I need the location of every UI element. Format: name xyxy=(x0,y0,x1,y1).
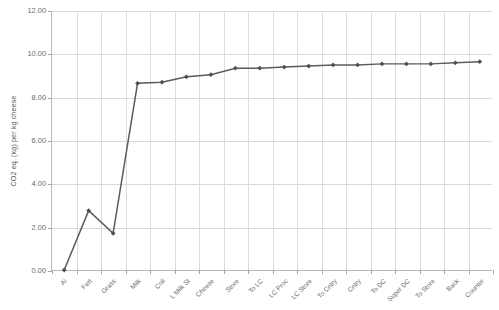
x-axis-tick-label-text: To DC xyxy=(369,277,388,296)
x-axis-tick-label-text: Counter xyxy=(463,277,485,299)
x-axis-tick-label-text: Cntry xyxy=(346,277,363,294)
series-line xyxy=(64,62,480,270)
y-axis-tick-label: 12.00 xyxy=(18,7,46,15)
data-point-marker xyxy=(208,72,213,77)
y-axis-tick-label: 2.00 xyxy=(18,224,46,232)
data-point-marker xyxy=(404,61,409,66)
data-series-layer xyxy=(52,11,492,270)
data-point-marker xyxy=(257,66,262,71)
data-point-marker xyxy=(135,81,140,86)
x-axis-tick-label-text: To Cntry xyxy=(316,277,339,300)
data-point-marker xyxy=(184,74,189,79)
y-axis-tick-label: 0.00 xyxy=(18,267,46,275)
data-point-marker xyxy=(453,60,458,65)
x-axis-tick-mark xyxy=(493,270,494,274)
y-axis-tick-label: 8.00 xyxy=(18,94,46,102)
x-axis-tick-label-text: LC Proc xyxy=(267,277,290,300)
x-axis-tick-label-text: Coll xyxy=(153,277,167,291)
plot-area xyxy=(51,11,492,271)
x-axis-tick-label-text: To Store xyxy=(414,277,437,300)
x-axis-tick-label-text: To LC xyxy=(247,277,265,295)
x-axis-tick-labels: AIFertGrassMilkCollL Milk StCheeseStoreT… xyxy=(51,271,492,310)
x-axis-tick-label-text: Grass xyxy=(100,277,118,295)
x-axis-tick-label-text: Back xyxy=(445,277,461,293)
chart-container: CO2 eq. (kg) per kg cheese 0.002.004.006… xyxy=(0,0,499,310)
x-axis-tick-label-text: Fert xyxy=(80,277,94,291)
y-axis-tick-label: 10.00 xyxy=(18,50,46,58)
data-point-marker xyxy=(477,59,482,64)
x-axis-tick-label-text: AI xyxy=(59,277,69,287)
data-point-marker xyxy=(282,65,287,70)
data-point-marker xyxy=(428,61,433,66)
data-point-marker xyxy=(331,63,336,68)
x-axis-tick-label-text: Cheese xyxy=(194,277,216,299)
y-axis-tick-label: 6.00 xyxy=(18,137,46,145)
data-point-marker xyxy=(160,80,165,85)
x-axis-tick-label-text: L Milk St xyxy=(168,277,191,300)
data-point-marker xyxy=(233,66,238,71)
x-axis-tick-label-text: Store xyxy=(224,277,241,294)
x-axis-tick-label-text: Milk xyxy=(129,277,143,291)
x-axis-tick-label-text: LC Store xyxy=(290,277,314,301)
y-axis-tick-labels: 0.002.004.006.008.0010.0012.00 xyxy=(18,0,46,310)
data-point-marker xyxy=(380,61,385,66)
data-point-marker xyxy=(355,63,360,68)
data-point-marker xyxy=(306,64,311,69)
y-axis-tick-label: 4.00 xyxy=(18,180,46,188)
